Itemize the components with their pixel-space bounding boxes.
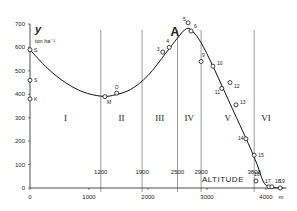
data-point-label: 9 [202, 52, 205, 58]
data-point [189, 29, 193, 33]
data-point-label: 16 [254, 171, 260, 177]
data-point-label: 19 [279, 178, 285, 184]
zone-label: VI [261, 113, 271, 123]
zone-label: III [155, 113, 164, 123]
data-point [28, 48, 32, 52]
data-point [244, 137, 248, 141]
data-point-label: 17 [265, 178, 271, 184]
y-tick-label: 100 [15, 162, 26, 168]
zone-label: IV [185, 113, 195, 123]
data-point-label: 6 [194, 23, 197, 29]
x-tick-label: 4000 [259, 194, 273, 200]
chart-canvas: 12001900250029003800IIIIIIIVVVI010020030… [0, 0, 297, 211]
x-tick-label: 1000 [82, 194, 96, 200]
y-tick-label: 700 [15, 21, 26, 27]
data-point-label: 3 [157, 46, 160, 52]
data-point-label: S [34, 47, 38, 53]
y-unit-label: ton ha⁻¹ [35, 38, 55, 44]
data-point-label: 4 [166, 38, 169, 44]
y-axis-label: y [34, 23, 42, 35]
data-point-label: 5 [183, 16, 186, 22]
data-point-label: 14 [238, 135, 244, 141]
fit-curve [30, 28, 284, 188]
data-point [199, 59, 203, 63]
data-point-label: 11 [215, 89, 220, 95]
data-point-label: 13 [240, 99, 246, 105]
data-point [167, 45, 171, 49]
data-point-label: S [34, 77, 38, 83]
data-point-label: O [115, 84, 119, 90]
boundary-label: 1200 [94, 169, 108, 175]
data-point [28, 78, 32, 82]
data-point-label: K [34, 96, 38, 102]
data-point-label: 10 [217, 60, 223, 66]
zone-label: I [64, 113, 67, 123]
data-point [115, 91, 119, 95]
data-point [211, 64, 215, 68]
data-point [278, 186, 282, 190]
x-tick-label: 0 [28, 194, 32, 200]
y-tick-label: 600 [15, 44, 26, 50]
boundary-label: 2500 [171, 169, 185, 175]
zone-label: V [224, 113, 231, 123]
altitude-yield-chart: 12001900250029003800IIIIIIIVVVI010020030… [0, 0, 297, 211]
data-point [252, 153, 256, 157]
y-tick-label: 500 [15, 68, 26, 74]
data-point-label: 12 [234, 83, 240, 89]
y-tick-label: 200 [15, 138, 26, 144]
data-point [28, 97, 32, 101]
x-unit-label: m [279, 194, 284, 200]
y-tick-label: 400 [15, 91, 26, 97]
y-tick-label: 300 [15, 115, 26, 121]
data-point [234, 103, 238, 107]
x-tick-label: 3000 [200, 194, 214, 200]
boundary-label: 1900 [135, 169, 149, 175]
zone-label: II [118, 113, 124, 123]
data-point-label: 15 [258, 152, 264, 158]
data-point [254, 179, 258, 183]
y-tick-label: 0 [22, 185, 26, 191]
data-point [220, 86, 224, 90]
x-tick-label: 2000 [141, 194, 155, 200]
data-point [270, 185, 274, 189]
data-point [186, 21, 190, 25]
x-axis-label: ALTITUDE [202, 175, 244, 184]
data-point-label: M [107, 99, 111, 105]
data-point [228, 81, 232, 85]
data-point [161, 50, 165, 54]
